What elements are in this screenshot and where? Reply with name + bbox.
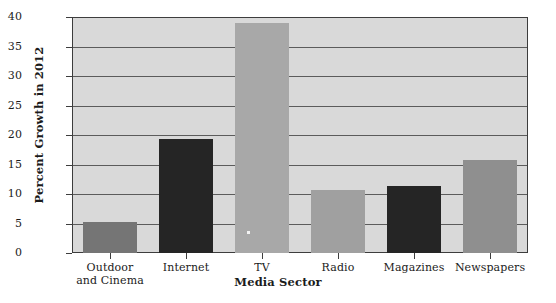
x-tick-mark — [490, 253, 491, 259]
bar-outdoor-and-cinema — [83, 222, 137, 253]
gridline — [73, 135, 527, 136]
y-tick-mark — [66, 17, 72, 18]
y-tick-label: 5 — [0, 218, 22, 229]
gridline — [73, 106, 527, 107]
x-tick-mark — [338, 253, 339, 259]
x-tick-label-line: Outdoor — [72, 262, 148, 275]
bar-radio — [311, 190, 365, 253]
x-tick-label: Newspapers — [452, 262, 528, 275]
gridline — [73, 194, 527, 195]
x-tick-label: Radio — [300, 262, 376, 275]
y-axis-title: Percent Growth in 2012 — [32, 10, 46, 240]
gridline — [73, 47, 527, 48]
x-tick-label-line: Magazines — [376, 262, 452, 275]
y-tick-mark — [66, 165, 72, 166]
y-tick-mark — [66, 194, 72, 195]
bar-speck-artifact — [247, 231, 250, 234]
x-tick-label-line: TV — [224, 262, 300, 275]
y-tick-label: 0 — [0, 247, 22, 258]
y-tick-label: 25 — [0, 100, 22, 111]
y-tick-label: 10 — [0, 188, 22, 199]
y-tick-label: 15 — [0, 159, 22, 170]
x-tick-label: TV — [224, 262, 300, 275]
gridline — [73, 76, 527, 77]
y-tick-label: 35 — [0, 41, 22, 52]
bar-newspapers — [463, 160, 517, 253]
x-tick-label-line: Newspapers — [452, 262, 528, 275]
x-tick-label: Internet — [148, 262, 224, 275]
y-tick-mark — [66, 224, 72, 225]
bar-internet — [159, 139, 213, 253]
y-tick-label: 30 — [0, 70, 22, 81]
y-tick-mark — [66, 47, 72, 48]
y-tick-mark — [66, 76, 72, 77]
x-tick-mark — [414, 253, 415, 259]
y-tick-label: 40 — [0, 11, 22, 22]
x-tick-mark — [262, 253, 263, 259]
bar-tv — [235, 23, 289, 253]
x-tick-label-line: Radio — [300, 262, 376, 275]
plot-area — [72, 17, 528, 253]
bar-magazines — [387, 186, 441, 253]
bar-chart: Percent Growth in 2012 0510152025303540 … — [0, 0, 556, 303]
gridline — [73, 224, 527, 225]
y-tick-mark — [66, 106, 72, 107]
x-tick-mark — [110, 253, 111, 259]
x-tick-label: Magazines — [376, 262, 452, 275]
y-tick-label: 20 — [0, 129, 22, 140]
y-tick-mark — [66, 135, 72, 136]
y-tick-mark — [66, 253, 72, 254]
x-tick-mark — [186, 253, 187, 259]
x-tick-label-line: Internet — [148, 262, 224, 275]
x-axis-title: Media Sector — [0, 275, 556, 289]
gridline — [73, 165, 527, 166]
